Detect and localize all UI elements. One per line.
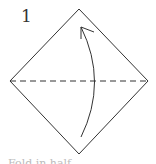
origami-diagram bbox=[0, 0, 156, 164]
fold-arrow bbox=[81, 27, 95, 137]
arrowhead-icon bbox=[81, 27, 94, 39]
step-caption: Fold in half bbox=[8, 157, 71, 164]
